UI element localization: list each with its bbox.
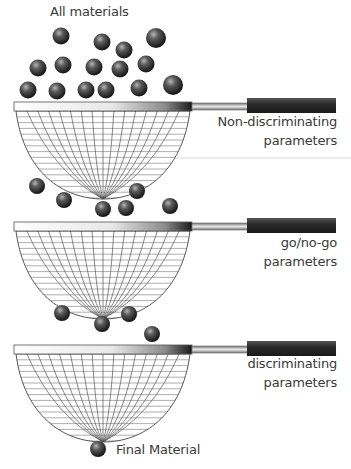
material-ball-icon bbox=[116, 42, 133, 59]
material-ball-icon bbox=[29, 178, 45, 194]
stage1-label-line1: Non-discriminating bbox=[218, 113, 337, 131]
material-ball-icon bbox=[163, 75, 183, 95]
all-materials-title: All materials bbox=[50, 3, 129, 21]
stage2-label-line1: go/no-go bbox=[281, 234, 337, 252]
sieve-mesh bbox=[16, 354, 190, 442]
final-material-label: Final Material bbox=[116, 441, 200, 459]
material-ball-icon bbox=[98, 82, 115, 99]
final-material-icon bbox=[90, 441, 106, 457]
material-ball-icon bbox=[94, 316, 110, 332]
material-ball-icon bbox=[86, 59, 103, 76]
material-ball-icon bbox=[144, 326, 160, 342]
material-ball-icon bbox=[94, 34, 111, 51]
sieve-rod bbox=[192, 103, 248, 110]
material-ball-icon bbox=[112, 61, 129, 78]
sieve-rod bbox=[192, 223, 248, 230]
sieve-rim bbox=[14, 102, 192, 111]
material-ball-icon bbox=[53, 28, 70, 45]
material-ball-icon bbox=[56, 192, 72, 208]
material-ball-icon bbox=[131, 80, 148, 97]
sieve-handle bbox=[247, 98, 336, 113]
material-ball-icon bbox=[78, 82, 95, 99]
material-ball-icon bbox=[121, 306, 137, 322]
material-ball-icon bbox=[95, 201, 111, 217]
material-ball-icon bbox=[118, 200, 134, 216]
stage1-label-line2: parameters bbox=[264, 132, 337, 150]
material-ball-icon bbox=[55, 57, 72, 74]
stage2-label-line2: parameters bbox=[264, 253, 337, 271]
sieve-mesh bbox=[16, 231, 190, 319]
stage3-label-line1: discriminating bbox=[247, 355, 337, 373]
material-ball-icon bbox=[20, 82, 37, 99]
stage3-label-line2: parameters bbox=[264, 374, 337, 392]
material-ball-icon bbox=[162, 198, 178, 214]
material-ball-icon bbox=[129, 183, 145, 199]
material-ball-icon bbox=[54, 305, 70, 321]
sieve-rod bbox=[192, 346, 248, 353]
material-ball-icon bbox=[146, 28, 166, 48]
sieve-rim bbox=[14, 345, 192, 354]
material-ball-icon bbox=[30, 60, 47, 77]
sieve-handle bbox=[247, 218, 336, 233]
material-ball-icon bbox=[49, 83, 66, 100]
sieve-rim bbox=[14, 222, 192, 231]
sieve-handle bbox=[247, 341, 336, 356]
material-ball-icon bbox=[138, 56, 155, 73]
